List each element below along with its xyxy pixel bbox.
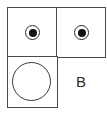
bullseye-center-dot xyxy=(29,29,37,37)
option-label: B xyxy=(74,74,88,90)
bullseye-icon xyxy=(25,25,40,40)
grid-cell-top-right xyxy=(56,7,106,58)
bullseye-icon xyxy=(74,25,89,40)
circle-icon xyxy=(12,62,51,101)
grid-cell-top-left xyxy=(7,7,58,58)
grid-cell-bottom-left xyxy=(7,56,58,108)
bullseye-center-dot xyxy=(78,29,86,37)
